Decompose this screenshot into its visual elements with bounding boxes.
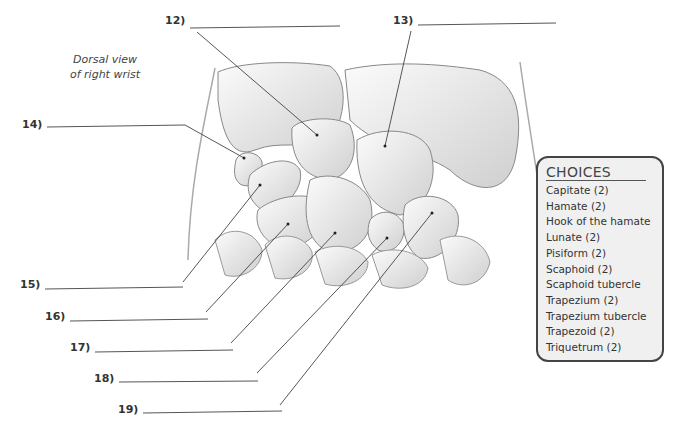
label-number-12: 12) [165, 14, 185, 27]
caption-line-2: of right wrist [50, 67, 160, 82]
choice-item: Lunate (2) [546, 230, 654, 246]
answer-line-16[interactable] [70, 319, 208, 321]
answer-line-12[interactable] [190, 26, 340, 28]
leader-dot-14 [243, 157, 246, 160]
choice-item: Hamate (2) [546, 199, 654, 215]
choices-box: CHOICES Capitate (2)Hamate (2)Hook of th… [536, 156, 664, 362]
leader-dot-13 [384, 145, 387, 148]
answer-line-14[interactable] [47, 125, 185, 127]
caption-line-1: Dorsal view [50, 52, 160, 67]
choices-list: Capitate (2)Hamate (2)Hook of the hamate… [546, 183, 654, 356]
label-number-17: 17) [70, 341, 90, 354]
answer-line-19[interactable] [143, 411, 282, 413]
choice-item: Trapezium tubercle [546, 309, 654, 325]
choices-title: CHOICES [546, 164, 646, 181]
label-number-14: 14) [22, 118, 42, 131]
choice-item: Pisiform (2) [546, 246, 654, 262]
choice-item: Trapezoid (2) [546, 324, 654, 340]
choice-item: Hook of the hamate [546, 214, 654, 230]
answer-line-18[interactable] [119, 381, 258, 382]
label-number-18: 18) [94, 372, 114, 385]
label-number-19: 19) [118, 403, 138, 416]
choice-item: Trapezium (2) [546, 293, 654, 309]
choice-item: Capitate (2) [546, 183, 654, 199]
choice-item: Scaphoid tubercle [546, 277, 654, 293]
leader-dot-18 [386, 237, 389, 240]
leader-dot-16 [287, 223, 290, 226]
leader-dot-19 [431, 212, 434, 215]
leader-dot-15 [259, 184, 262, 187]
answer-line-15[interactable] [45, 287, 183, 289]
view-caption: Dorsal view of right wrist [50, 52, 160, 82]
leader-dot-12 [316, 134, 319, 137]
answer-line-13[interactable] [418, 23, 556, 25]
choice-item: Scaphoid (2) [546, 262, 654, 278]
label-number-15: 15) [20, 278, 40, 291]
label-number-13: 13) [393, 14, 413, 27]
choice-item: Triquetrum (2) [546, 340, 654, 356]
answer-line-17[interactable] [95, 350, 233, 352]
worksheet: Dorsal view of right wrist 12)13)14)15)1… [0, 0, 688, 429]
label-number-16: 16) [45, 310, 65, 323]
leader-dot-17 [334, 232, 337, 235]
